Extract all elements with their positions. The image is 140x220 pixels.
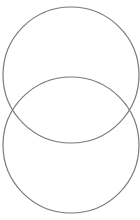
- venn-diagram-svg: [0, 0, 140, 220]
- lower-circle: [3, 77, 139, 213]
- upper-circle: [3, 7, 139, 143]
- venn-diagram: [0, 0, 140, 220]
